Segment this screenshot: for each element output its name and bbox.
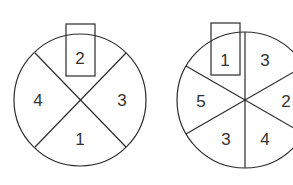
wheel-2-label-bottom-left: 3: [221, 130, 230, 149]
wheel-six-sectors: [177, 23, 293, 168]
wheel-2-label-bottom-right: 4: [260, 130, 269, 149]
wheel-2-outline: [177, 32, 293, 168]
wheel-2-label-top-left: 1: [220, 51, 229, 70]
wheel-2-label-right: 2: [281, 92, 290, 111]
wheel-1-label-bottom: 1: [75, 130, 84, 149]
wheel-1-label-top: 2: [75, 49, 84, 68]
wheel-2-label-top-right: 3: [260, 51, 269, 70]
wheel-2-label-left: 5: [196, 92, 205, 111]
spinner-diagram: 2 3 1 4 1 3 2 4 3 5: [0, 0, 293, 185]
wheel-1-label-left: 4: [33, 91, 42, 110]
wheel-1-label-right: 3: [117, 91, 126, 110]
